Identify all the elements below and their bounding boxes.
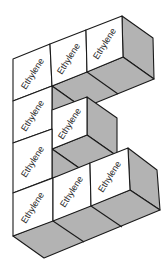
cube-stack-diagram: Ethylene Ethylene Ethylene Ethylene Ethy… [0, 0, 168, 271]
